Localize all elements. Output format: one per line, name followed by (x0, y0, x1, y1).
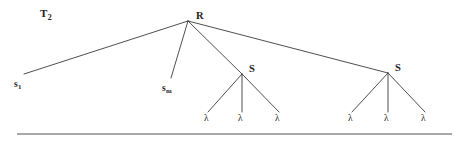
tree-edge-root-to-s-last (171, 21, 188, 78)
leaf-s-first-subscript: 1 (18, 83, 22, 90)
tree-edge-root-to-s-first (24, 21, 188, 74)
edge-group (24, 21, 425, 112)
node-label-root-r: R (196, 11, 204, 22)
node-label-subtree-left-s: S (249, 64, 255, 75)
leaf-label-s-last: sm (162, 84, 172, 95)
caption-subscript: 2 (47, 13, 51, 22)
tree-edge-subtree-right-to-lambda-1 (352, 73, 388, 112)
figure-caption-label: T2 (40, 8, 52, 21)
tree-edge-root-to-subtree-left (188, 21, 242, 74)
tree-edge-subtree-left-to-lambda-1 (208, 74, 242, 112)
leaf-label-s-first: s1 (14, 80, 22, 91)
leaf-s-last-subscript: m (166, 87, 172, 94)
tree-edge-subtree-right-to-lambda-3 (388, 73, 425, 112)
node-label-subtree-right-s: S (395, 63, 401, 74)
leaf-label-lambda-left-2: λ (238, 114, 243, 124)
leaf-label-lambda-left-1: λ (204, 114, 209, 124)
leaf-label-lambda-right-1: λ (348, 114, 353, 124)
tree-edge-root-to-subtree-right (188, 21, 388, 73)
leaf-label-lambda-left-3: λ (275, 114, 280, 124)
tree-edge-subtree-left-to-lambda-3 (242, 74, 279, 112)
tree-diagram-figure: T2 R S S s1 sm λλλ λλλ (0, 0, 455, 143)
leaf-label-lambda-right-3: λ (421, 114, 426, 124)
leaf-label-lambda-right-2: λ (384, 114, 389, 124)
